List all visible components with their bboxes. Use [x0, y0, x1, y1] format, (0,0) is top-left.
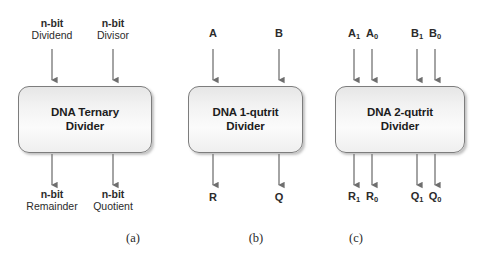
figure-canvas: DNA Ternary Divider n-bit Dividend n-bit…	[0, 0, 479, 258]
output-label-q0-base: Q	[429, 190, 438, 202]
output-label-r1-base: R	[348, 190, 356, 202]
input-label-b: B	[265, 28, 293, 40]
caption-c: (c)	[336, 231, 376, 246]
block-dna-ternary-divider: DNA Ternary Divider	[18, 86, 152, 153]
input-label-divisor-line1: n-bit	[76, 18, 150, 30]
block-label: DNA Ternary Divider	[47, 106, 123, 133]
block-label: DNA 1-qutrit Divider	[208, 106, 282, 133]
caption-a: (a)	[113, 231, 153, 246]
output-label-r0-sub: 0	[374, 195, 378, 204]
input-label-b0-sub: 0	[437, 32, 441, 41]
input-label-a1-base: A	[348, 27, 356, 39]
input-label-divisor: n-bit Divisor	[76, 18, 150, 41]
output-label-quotient: n-bit Quotient	[76, 189, 150, 212]
block-dna-2-qutrit-divider: DNA 2-qutrit Divider	[335, 86, 465, 153]
output-label-r: R	[199, 192, 227, 204]
input-label-b1-base: B	[411, 27, 419, 39]
input-label-a: A	[199, 28, 227, 40]
output-label-q: Q	[265, 192, 293, 204]
input-label-a0-base: A	[366, 27, 374, 39]
output-label-r0: R0	[359, 191, 385, 204]
output-label-r0-base: R	[366, 190, 374, 202]
caption-b: (b)	[236, 231, 276, 246]
input-label-b0: B0	[422, 28, 448, 41]
block-label: DNA 2-qutrit Divider	[363, 106, 437, 133]
input-label-divisor-line2: Divisor	[76, 30, 150, 42]
input-label-a0-sub: 0	[374, 32, 378, 41]
input-label-b0-base: B	[429, 27, 437, 39]
input-label-a0: A0	[359, 28, 385, 41]
output-label-quotient-line1: n-bit	[76, 189, 150, 201]
output-label-q1-base: Q	[411, 190, 420, 202]
output-label-q0: Q0	[422, 191, 448, 204]
output-label-quotient-line2: Quotient	[76, 201, 150, 213]
output-label-q0-sub: 0	[437, 195, 441, 204]
block-dna-1-qutrit-divider: DNA 1-qutrit Divider	[188, 86, 303, 153]
